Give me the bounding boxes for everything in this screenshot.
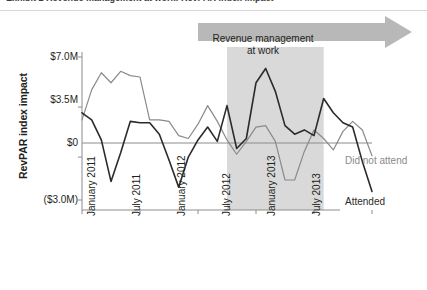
y-axis-ticks: [78, 57, 82, 200]
x-tick-label: January 2012: [176, 155, 187, 216]
series-label-attended: Attended: [345, 196, 385, 207]
chart-figure: Exhibit 2 Revenue management at work: Re…: [0, 0, 427, 290]
y-tick-label-group: $7.0M $3.5M $0 ($3.0M): [22, 0, 78, 290]
series-label-did-not-attend: Did not attend: [345, 155, 407, 166]
y-tick-label: ($3.0M): [22, 194, 78, 205]
y-tick-label: $3.5M: [22, 94, 78, 105]
y-tick-label: $0: [22, 137, 78, 148]
x-tick-label: January 2013: [266, 155, 277, 216]
x-tick-label: January 2011: [86, 156, 97, 216]
x-tick-label: July 2011: [131, 174, 142, 216]
x-tick-label: July 2013: [311, 173, 322, 216]
y-tick-label: $7.0M: [22, 51, 78, 62]
x-tick-label: July 2012: [221, 173, 232, 216]
revenue-management-arrow: [198, 16, 412, 48]
